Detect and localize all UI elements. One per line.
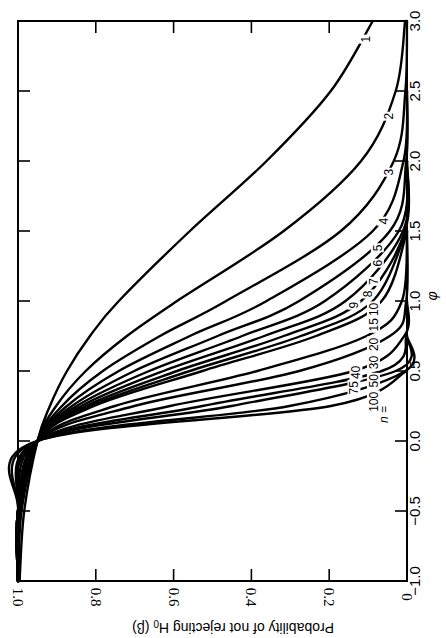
curve-label-n-20: 20 bbox=[367, 337, 381, 351]
phi-tick-label: 1.5 bbox=[406, 221, 423, 242]
beta-tick-label: 1.0 bbox=[10, 588, 26, 607]
curve-label-n-1: 1 bbox=[359, 36, 373, 43]
curve-label-n-50: 50 bbox=[367, 374, 381, 388]
beta-tick-label: 0.4 bbox=[243, 588, 259, 607]
curve-label-n-3: 3 bbox=[382, 169, 396, 176]
oc-curve-n-5 bbox=[17, 91, 407, 581]
phi-tick-label: 2.5 bbox=[406, 81, 423, 102]
curve-label-n-8: 8 bbox=[361, 290, 375, 297]
phi-tick-label: 1.0 bbox=[406, 291, 423, 312]
curve-label-n-6: 6 bbox=[371, 260, 385, 267]
beta-tick-label: 0.2 bbox=[321, 588, 337, 607]
phi-axis-title: φ bbox=[424, 291, 440, 300]
beta-tick-label: 0.8 bbox=[88, 588, 104, 607]
oc-curve-chart: 12345678910152030405075100 00.20.40.60.8… bbox=[0, 0, 446, 638]
phi-tick-label: −0.5 bbox=[406, 496, 423, 526]
beta-tick-label: 0.6 bbox=[166, 588, 182, 607]
phi-tick-label: 3.0 bbox=[406, 11, 423, 32]
phi-tick-label: 2.0 bbox=[406, 151, 423, 172]
curve-label-n-30: 30 bbox=[367, 356, 381, 370]
curve-label-n-10: 10 bbox=[367, 302, 381, 316]
curve-label-n-2: 2 bbox=[382, 113, 396, 120]
curve-label-n-9: 9 bbox=[347, 302, 361, 309]
curve-label-n-75: 75 bbox=[347, 381, 361, 395]
oc-curve-n-100 bbox=[9, 371, 407, 581]
phi-tick-label: −1.0 bbox=[406, 566, 423, 596]
curve-label-n-5: 5 bbox=[371, 244, 385, 251]
oc-curve-n-4 bbox=[18, 91, 408, 581]
phi-tick-label: 0.5 bbox=[406, 361, 423, 382]
curve-label-n-7: 7 bbox=[367, 278, 381, 285]
phi-tick-label: 0.0 bbox=[406, 431, 423, 452]
n-equals-label: n = bbox=[377, 406, 391, 423]
oc-curve-n-1 bbox=[20, 21, 373, 581]
curve-label-n-15: 15 bbox=[367, 318, 381, 332]
curve-label-n-40: 40 bbox=[349, 365, 363, 379]
beta-axis-title: Probability of not rejecting H0 (β) bbox=[132, 618, 334, 636]
curve-label-n-4: 4 bbox=[377, 218, 391, 225]
curve-labels: 12345678910152030405075100 bbox=[347, 35, 396, 414]
